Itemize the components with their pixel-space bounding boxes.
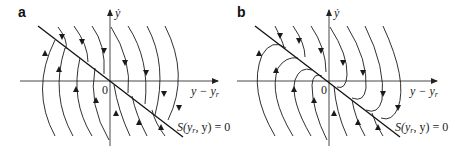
- sliding-surface-label: S(yr, y) = 0: [395, 120, 448, 135]
- sliding-surface-line: [38, 26, 183, 137]
- trajectories-upper-left: [58, 26, 104, 74]
- sliding-surface-line: [255, 26, 400, 137]
- sliding-surface-label: S(yr, y) = 0: [177, 120, 230, 135]
- origin-label: 0: [321, 83, 327, 97]
- y-axis-label: ẏ: [333, 6, 340, 20]
- trajectories-lower-right: [114, 85, 165, 136]
- panel-a: a ẏ 0 y − yr S(yr, y) = 0: [18, 4, 230, 146]
- y-axis-label: ẏ: [114, 6, 121, 20]
- phase-portrait-figure: a ẏ 0 y − yr S(yr, y) = 0: [0, 0, 465, 150]
- trajectories-upper-left: [275, 26, 326, 72]
- panel-b: b ẏ 0 y − yr S(yr, y) = 0: [237, 4, 448, 146]
- origin-label: 0: [102, 83, 108, 97]
- trajectories-left: [257, 44, 327, 140]
- panel-label-a: a: [18, 4, 26, 20]
- trajectories-right: [330, 26, 401, 119]
- trajectories-lower-right: [334, 86, 383, 136]
- x-axis-label: y − yr: [409, 84, 439, 99]
- panel-label-b: b: [237, 4, 246, 20]
- x-axis-label: y − yr: [190, 84, 220, 99]
